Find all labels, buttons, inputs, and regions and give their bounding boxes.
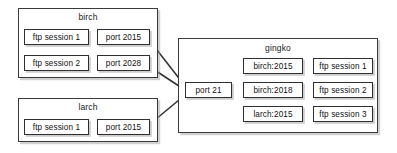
gingko-ftp-session-1[interactable]: ftp session 1 [313,58,373,74]
host-label-gingko: gingko [179,43,377,53]
gingko-peer-larch-2015[interactable]: larch:2015 [243,106,303,122]
birch-port-2028[interactable]: port 2028 [97,55,150,71]
host-label-birch: birch [19,12,157,22]
birch-ftp-session-1[interactable]: ftp session 1 [24,29,89,45]
gingko-ftp-session-2[interactable]: ftp session 2 [313,82,373,98]
diagram-canvas: birch ftp session 1 port 2015 ftp sessio… [0,0,397,153]
gingko-port-21[interactable]: port 21 [185,82,232,98]
host-label-larch: larch [19,102,157,112]
birch-ftp-session-2[interactable]: ftp session 2 [24,55,89,71]
larch-port-2015[interactable]: port 2015 [97,119,150,135]
gingko-peer-birch-2018[interactable]: birch:2018 [243,82,303,98]
birch-port-2015[interactable]: port 2015 [97,29,150,45]
larch-ftp-session-1[interactable]: ftp session 1 [24,119,89,135]
gingko-ftp-session-3[interactable]: ftp session 3 [313,106,373,122]
gingko-peer-birch-2015[interactable]: birch:2015 [243,58,303,74]
